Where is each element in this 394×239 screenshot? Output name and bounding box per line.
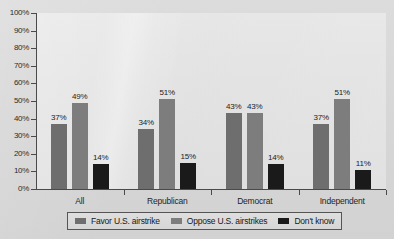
bar [355, 170, 371, 189]
legend-item[interactable]: Don't know [278, 216, 334, 226]
legend-item-label: Oppose U.S. airstrikes [187, 216, 268, 226]
legend-item[interactable]: Oppose U.S. airstrikes [171, 216, 268, 226]
bar-chart: 0%10%20%30%40%50%60%70%80%90%100% 37%49%… [0, 0, 394, 239]
y-axis-tick-label: 10% [0, 167, 29, 175]
y-axis-tick [31, 119, 36, 120]
y-axis-tick-label: 100% [0, 9, 29, 17]
bar [268, 164, 284, 189]
y-axis-tick [31, 101, 36, 102]
bar-value-label: 14% [87, 153, 115, 162]
bar [226, 113, 242, 189]
y-axis-tick-label: 50% [0, 97, 29, 105]
chart-legend: Favor U.S. airstrikeOppose U.S. airstrik… [67, 212, 342, 230]
x-axis-tick [386, 190, 387, 195]
y-axis-tick-label: 70% [0, 62, 29, 70]
y-axis-line [36, 13, 37, 190]
bar-value-label: 37% [45, 113, 73, 122]
x-axis-tick [211, 190, 212, 195]
y-axis-tick [31, 189, 36, 190]
bar-value-label: 51% [153, 88, 181, 97]
bar-value-label: 37% [307, 113, 335, 122]
bar [313, 124, 329, 189]
bar [180, 163, 196, 189]
x-axis-category-label: All [36, 196, 124, 206]
legend-swatch-icon [75, 218, 86, 224]
bar [334, 99, 350, 189]
legend-item-label: Favor U.S. airstrike [91, 216, 160, 226]
bar [72, 103, 88, 189]
y-axis-tick [31, 48, 36, 49]
x-axis-tick [124, 190, 125, 195]
bar [159, 99, 175, 189]
legend-swatch-icon [278, 218, 289, 224]
y-axis-tick-label: 60% [0, 79, 29, 87]
y-axis-tick-label: 80% [0, 44, 29, 52]
y-axis-tick [31, 136, 36, 137]
bar [247, 113, 263, 189]
y-axis-tick [31, 13, 36, 14]
bar-value-label: 51% [328, 88, 356, 97]
bar-value-label: 49% [66, 92, 94, 101]
y-axis-tick [31, 171, 36, 172]
x-axis-category-label: Republican [124, 196, 212, 206]
x-axis-tick [299, 190, 300, 195]
y-axis-tick-label: 90% [0, 27, 29, 35]
y-axis-tick [31, 31, 36, 32]
bar-value-label: 11% [349, 159, 377, 168]
x-axis-category-label: Independent [299, 196, 387, 206]
y-axis-tick-label: 40% [0, 115, 29, 123]
bar [138, 129, 154, 189]
bar [93, 164, 109, 189]
bar-value-label: 14% [262, 153, 290, 162]
y-axis-tick-label: 0% [0, 185, 29, 193]
bar [51, 124, 67, 189]
bar-value-label: 43% [241, 102, 269, 111]
y-axis-tick [31, 66, 36, 67]
legend-item[interactable]: Favor U.S. airstrike [75, 216, 160, 226]
y-axis-tick-label: 20% [0, 150, 29, 158]
legend-swatch-icon [171, 218, 182, 224]
y-axis-tick-label: 30% [0, 132, 29, 140]
y-axis-tick [31, 154, 36, 155]
x-axis-category-label: Democrat [211, 196, 299, 206]
y-axis-tick [31, 83, 36, 84]
bar-value-label: 15% [174, 152, 202, 161]
legend-item-label: Don't know [294, 216, 334, 226]
bar-value-label: 34% [132, 118, 160, 127]
